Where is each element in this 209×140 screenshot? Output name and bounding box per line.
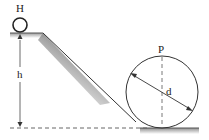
height-label: h [17, 68, 23, 80]
diameter-label: d [166, 85, 172, 97]
diameter-arrow [130, 73, 193, 111]
ball-label: H [16, 2, 24, 14]
bottom-ground [140, 128, 199, 134]
height-arrow [18, 34, 23, 127]
physics-diagram: h H P d [0, 0, 209, 140]
ball [13, 18, 27, 32]
ramp-slope [38, 33, 136, 122]
loop-top-label: P [158, 43, 164, 55]
